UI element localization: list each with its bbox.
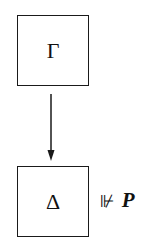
arrow-down-icon	[44, 94, 58, 162]
node-delta: Δ	[17, 166, 89, 237]
node-gamma: Γ	[17, 15, 89, 86]
proposition-label: P	[122, 188, 135, 212]
does-not-force-symbol: ⊮	[100, 191, 115, 211]
node-delta-label: Δ	[46, 191, 60, 213]
node-gamma-label: Γ	[47, 40, 60, 62]
forcing-annotation: ⊮P	[100, 190, 135, 211]
